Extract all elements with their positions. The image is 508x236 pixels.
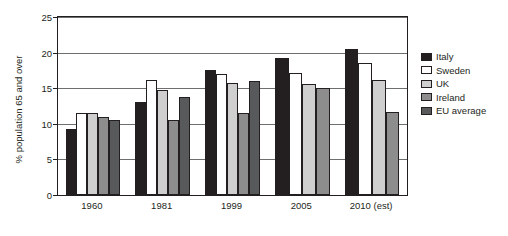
bar-italy-1999 xyxy=(205,70,216,195)
bar-sweden-1960 xyxy=(76,113,87,195)
bar-ireland-2010-est- xyxy=(386,112,400,195)
bar-italy-1960 xyxy=(66,129,77,195)
x-axis-tick-label: 1981 xyxy=(151,200,172,211)
y-axis-tick-labels: 0510152025 xyxy=(30,16,52,196)
bar-ireland-1981 xyxy=(168,120,179,195)
legend-swatch-icon xyxy=(421,53,432,61)
bar-uk-1999 xyxy=(227,83,238,195)
y-axis-tick-label: 25 xyxy=(41,12,52,23)
bar-italy-2010-est- xyxy=(345,49,359,195)
bar-italy-1981 xyxy=(135,102,146,195)
bar-eu-average-1981 xyxy=(179,97,190,195)
x-axis-tick-label: 2005 xyxy=(291,200,312,211)
bar-eu-average-1960 xyxy=(109,120,120,195)
bar-sweden-2010-est- xyxy=(358,63,372,195)
bar-series-layer xyxy=(58,17,407,195)
legend-item-eu-average: EU average xyxy=(421,104,505,118)
bar-uk-2005 xyxy=(302,84,316,195)
legend-label: UK xyxy=(436,78,449,89)
legend-label: EU average xyxy=(436,105,486,116)
x-axis-tick-label: 2010 (est) xyxy=(350,200,393,211)
legend-swatch-icon xyxy=(421,93,432,101)
bar-sweden-1981 xyxy=(146,80,157,195)
y-axis-tick-mark xyxy=(53,195,58,196)
bar-uk-2010-est- xyxy=(372,80,386,195)
bar-uk-1960 xyxy=(87,113,98,195)
bar-uk-1981 xyxy=(157,90,168,195)
y-axis-tick-label: 0 xyxy=(47,190,52,201)
bar-ireland-2005 xyxy=(316,88,330,195)
y-axis-tick-label: 20 xyxy=(41,47,52,58)
y-axis-label: % population 65 and over xyxy=(13,30,24,190)
y-axis-tick-label: 15 xyxy=(41,83,52,94)
bar-ireland-1999 xyxy=(238,113,249,195)
legend-item-sweden: Sweden xyxy=(421,64,505,78)
legend-swatch-icon xyxy=(421,66,432,74)
legend-label: Sweden xyxy=(436,65,470,76)
legend-swatch-icon xyxy=(421,107,432,115)
y-axis-tick-label: 5 xyxy=(47,154,52,165)
legend-item-uk: UK xyxy=(421,77,505,91)
bar-italy-2005 xyxy=(275,58,289,195)
bar-eu-average-1999 xyxy=(249,81,260,195)
x-axis-tick-labels: 19601981199920052010 (est) xyxy=(57,200,408,216)
x-axis-tick-label: 1999 xyxy=(221,200,242,211)
legend-label: Ireland xyxy=(436,92,465,103)
chart-legend: ItalySwedenUKIrelandEU average xyxy=(421,50,505,118)
x-axis-tick-label: 1960 xyxy=(81,200,102,211)
bar-ireland-1960 xyxy=(98,117,109,195)
legend-swatch-icon xyxy=(421,80,432,88)
y-axis-tick-label: 10 xyxy=(41,118,52,129)
bar-chart-figure: % population 65 and over 0510152025 1960… xyxy=(0,0,508,236)
legend-label: Italy xyxy=(436,51,453,62)
legend-item-italy: Italy xyxy=(421,50,505,64)
legend-item-ireland: Ireland xyxy=(421,91,505,105)
bar-sweden-2005 xyxy=(289,73,303,195)
bar-sweden-1999 xyxy=(216,74,227,195)
